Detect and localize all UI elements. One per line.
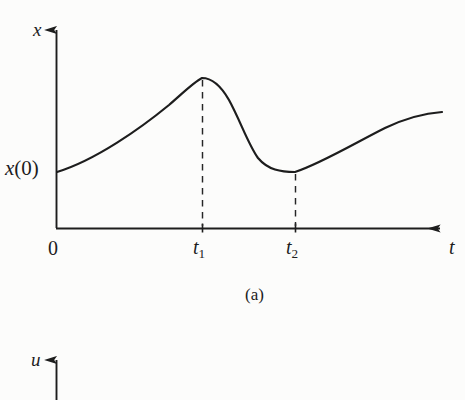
tick-label-t1-subscript: 1 [199,246,206,261]
origin-label: 0 [48,238,58,258]
initial-value-label: x(0) [5,158,39,179]
tick-label-t1: t1 [193,237,205,260]
state-trajectory-curve [57,78,442,172]
initial-value-argument: (0) [14,156,39,180]
panel-a-caption: (a) [245,286,264,303]
figure-canvas [0,0,465,400]
initial-value-variable: x [5,156,14,180]
tick-label-t2-subscript: 2 [292,246,299,261]
figure-container: x x(0) 0 t1 t2 t (a) u [0,0,465,400]
x-axis-label-a: t [449,237,455,257]
y-axis-label-a: x [33,20,41,39]
panel-a-group [56,30,442,233]
tick-label-t2: t2 [286,237,298,260]
y-axis-label-b: u [31,350,41,369]
